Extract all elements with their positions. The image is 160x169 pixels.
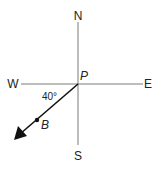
arrowhead-icon xyxy=(14,126,27,140)
label-point-b: B xyxy=(41,118,49,132)
label-east: E xyxy=(144,77,152,91)
label-south: S xyxy=(74,149,82,163)
label-north: N xyxy=(74,9,83,23)
label-origin-p: P xyxy=(80,69,88,83)
angle-label: 40° xyxy=(42,91,57,102)
label-west: W xyxy=(7,77,19,91)
point-b-dot xyxy=(35,118,39,122)
compass-diagram: N S E W P B 40° xyxy=(0,0,160,169)
